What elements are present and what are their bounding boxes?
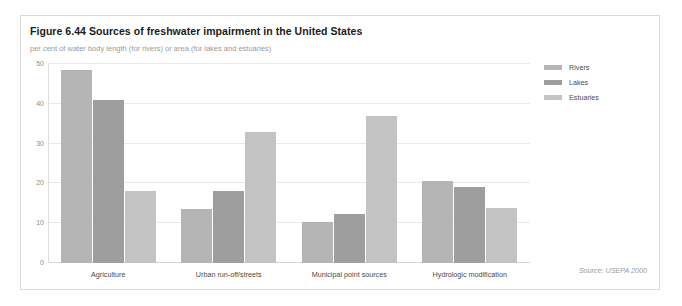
bar-rivers	[61, 70, 92, 263]
y-tick-label: 0	[40, 259, 44, 266]
bar-estuaries	[486, 208, 517, 263]
bar-lakes	[334, 214, 365, 263]
y-tick-label: 20	[36, 179, 44, 186]
x-category-label: Municipal point sources	[312, 270, 387, 279]
bar-group: Hydrologic modification	[410, 64, 531, 263]
legend-label: Rivers	[569, 63, 589, 72]
legend-label: Lakes	[569, 78, 588, 87]
bar-group: Urban run-off/streets	[169, 64, 290, 263]
bar-lakes	[454, 187, 485, 263]
figure-title: Figure 6.44 Sources of freshwater impair…	[30, 25, 362, 37]
bar-rivers	[181, 209, 212, 263]
x-category-label: Hydrologic modification	[433, 270, 507, 279]
legend-label: Estuaries	[569, 93, 599, 102]
y-tick-label: 50	[36, 60, 44, 67]
y-tick-label: 40	[36, 99, 44, 106]
bar-group: Agriculture	[48, 64, 169, 263]
legend-item-lakes: Lakes	[544, 75, 652, 90]
legend-item-estuaries: Estuaries	[544, 90, 652, 105]
bar-estuaries	[245, 132, 276, 263]
figure-frame: Figure 6.44 Sources of freshwater impair…	[20, 15, 660, 290]
bar-estuaries	[125, 191, 156, 263]
chart-bars: AgricultureUrban run-off/streetsMunicipa…	[48, 64, 530, 263]
bar-lakes	[213, 191, 244, 263]
bar-estuaries	[366, 116, 397, 263]
y-tick-label: 30	[36, 139, 44, 146]
legend-swatch-icon	[544, 95, 562, 100]
bar-group: Municipal point sources	[289, 64, 410, 263]
bar-rivers	[302, 222, 333, 263]
bar-lakes	[93, 100, 124, 263]
chart-legend: RiversLakesEstuaries	[544, 60, 652, 105]
y-tick-label: 10	[36, 219, 44, 226]
bar-rivers	[422, 181, 453, 263]
figure-subtitle: per cent of water body length (for river…	[30, 44, 271, 53]
source-note: Source: USEPA 2000	[579, 266, 647, 275]
legend-swatch-icon	[544, 80, 562, 85]
x-category-label: Agriculture	[91, 270, 125, 279]
legend-swatch-icon	[544, 65, 562, 70]
legend-item-rivers: Rivers	[544, 60, 652, 75]
x-category-label: Urban run-off/streets	[196, 270, 262, 279]
chart-plot-area: 01020304050 AgricultureUrban run-off/str…	[48, 64, 530, 263]
